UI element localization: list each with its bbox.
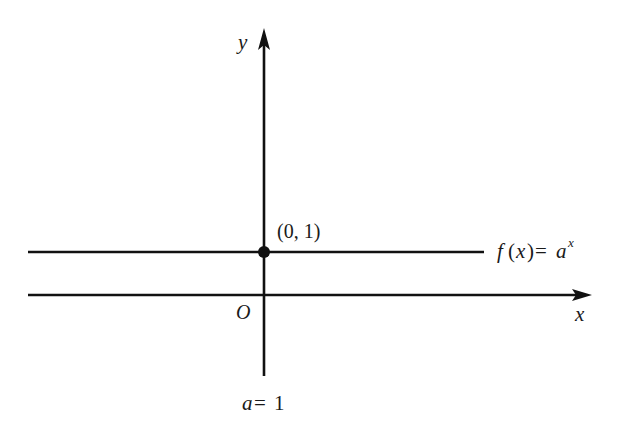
function-label-equals: = [535,239,547,263]
function-label-paren-open: ( [508,239,515,263]
function-label-var: x [515,239,526,263]
function-label: f ( x ) = a x [497,235,574,263]
graph-svg: y (0, 1) O x f ( x ) = a x a = 1 [0,0,617,443]
function-label-f: f [497,239,506,263]
intercept-point [258,246,270,258]
graph-figure: y (0, 1) O x f ( x ) = a x a = 1 [0,0,617,443]
function-label-base: a [556,239,567,263]
condition-var: a [242,391,253,415]
point-label: (0, 1) [277,220,320,243]
y-axis-label: y [236,30,248,54]
condition-value: 1 [274,391,285,415]
condition-equals: = [254,391,266,415]
x-axis-label: x [574,302,585,326]
function-label-paren-close: ) [527,239,534,263]
function-label-exponent: x [567,235,574,250]
condition-label: a = 1 [242,391,285,415]
origin-label: O [236,301,250,323]
